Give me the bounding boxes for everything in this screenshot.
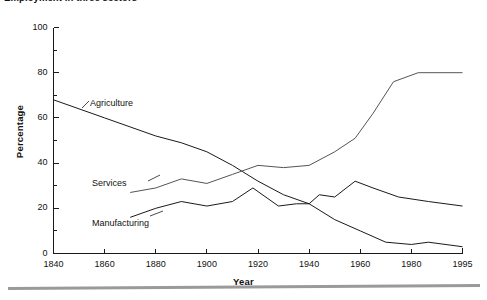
- y-tick-label: 40: [22, 157, 48, 167]
- series-label-services: Services: [92, 178, 127, 188]
- x-tick-label: 1860: [85, 259, 125, 269]
- y-tick-label: 20: [22, 202, 48, 212]
- leader-manufacturing: [150, 211, 163, 216]
- series-label-agriculture: Agriculture: [90, 98, 133, 108]
- y-tick-label: 0: [22, 248, 48, 258]
- series-label-manufacturing: Manufacturing: [92, 218, 149, 228]
- y-tick-label: 60: [22, 112, 48, 122]
- leader-services: [148, 175, 160, 181]
- x-tick-label: 1995: [443, 259, 483, 269]
- chart-plot-area: [0, 0, 487, 300]
- y-tick-label: 100: [22, 22, 48, 32]
- line-chart-figure: Percentage Year 020406080100 18401860188…: [0, 0, 487, 300]
- series-line-services: [130, 73, 462, 193]
- x-tick-label: 1940: [289, 259, 329, 269]
- y-tick-label: 80: [22, 67, 48, 77]
- x-tick-label: 1980: [391, 259, 431, 269]
- x-tick-label: 1920: [238, 259, 278, 269]
- x-tick-label: 1900: [187, 259, 227, 269]
- x-tick-label: 1960: [340, 259, 380, 269]
- leader-agriculture: [82, 101, 89, 108]
- x-tick-label: 1840: [34, 259, 74, 269]
- x-tick-label: 1880: [136, 259, 176, 269]
